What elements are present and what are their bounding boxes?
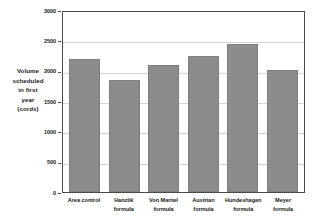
x-axis-category-label-line: Meyer <box>263 196 303 205</box>
x-axis-category-label: Area control <box>64 196 104 222</box>
y-axis-tick-mark <box>58 72 61 73</box>
x-axis-category-label-line: Austrian <box>183 196 223 205</box>
bar-chart-figure: Volume scheduled in first year (cords) 0… <box>0 0 315 224</box>
x-axis-category-label: Hundeshagenformula <box>223 196 263 222</box>
x-axis-category-label-line: Hundeshagen <box>223 196 263 205</box>
x-axis-category-label: Hanzlikformula <box>104 196 144 222</box>
x-axis-category-label-line: formula <box>263 205 303 214</box>
x-axis-category-label-line: formula <box>144 205 184 214</box>
y-axis-title-line: in first <box>2 85 54 95</box>
bar <box>109 80 140 192</box>
y-axis-tick-label: 2500 <box>34 38 56 44</box>
x-axis-category-label: Von Mantelformula <box>144 196 184 222</box>
y-axis-tick-mark <box>58 11 61 12</box>
y-axis-title-line: (cords) <box>2 104 54 114</box>
bar <box>188 56 219 193</box>
y-axis-tick-mark <box>58 41 61 42</box>
y-axis-title-line: scheduled <box>2 76 54 86</box>
x-axis-category-label-line: Area control <box>64 196 104 205</box>
y-axis-tick-mark <box>58 193 61 194</box>
x-axis-category-label-line: formula <box>223 205 263 214</box>
y-axis-tick-mark <box>58 132 61 133</box>
x-axis-category-labels: Area controlHanzlikformulaVon Mantelform… <box>62 196 305 222</box>
y-axis-tick-label: 1000 <box>34 129 56 135</box>
y-axis-tick-label: 1500 <box>34 99 56 105</box>
y-axis-tick-mark <box>58 163 61 164</box>
x-axis-category-label: Meyerformula <box>263 196 303 222</box>
bars-layer <box>63 12 304 192</box>
x-axis-category-label-line: Hanzlik <box>104 196 144 205</box>
bar <box>69 59 100 192</box>
y-axis-tick-label: 500 <box>34 159 56 165</box>
y-axis-tick-label: 0 <box>34 190 56 196</box>
y-axis-tick-label: 3000 <box>34 8 56 14</box>
x-axis-category-label-line: formula <box>183 205 223 214</box>
bar <box>148 65 179 192</box>
y-axis-tick-label: 2000 <box>34 68 56 74</box>
bar <box>227 44 258 192</box>
x-axis-category-label-line: Von Mantel <box>144 196 184 205</box>
y-axis-tick-mark <box>58 102 61 103</box>
x-axis-category-label: Austrianformula <box>183 196 223 222</box>
plot-area <box>62 11 305 193</box>
x-axis-category-label-line: formula <box>104 205 144 214</box>
bar <box>267 70 298 192</box>
